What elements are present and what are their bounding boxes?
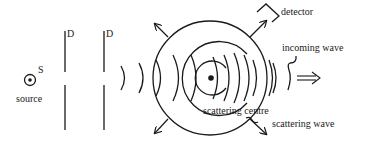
barrier-1-label: D (67, 28, 74, 39)
detector-label: detector (281, 6, 314, 17)
scattering-centre-label: scattering centre (203, 105, 269, 116)
double-arrow-right-icon (297, 72, 320, 84)
scattering-wave-label: scattering wave (272, 118, 335, 129)
scattering-centre-icon (208, 75, 214, 81)
source: S source (16, 64, 44, 104)
barrier-2-label: D (106, 28, 113, 39)
incoming-wave-label: incoming wave (282, 42, 344, 53)
detector-icon (257, 4, 279, 22)
incoming-wave: incoming wave (282, 42, 344, 90)
incoming-wavefronts (121, 53, 276, 103)
barrier-2: D (104, 28, 113, 130)
source-symbol-label: S (38, 64, 44, 75)
detector: detector (257, 4, 314, 22)
source-label: source (16, 93, 43, 104)
barrier-1: D (65, 28, 74, 130)
scattering-diagram: S source D D (0, 0, 369, 147)
